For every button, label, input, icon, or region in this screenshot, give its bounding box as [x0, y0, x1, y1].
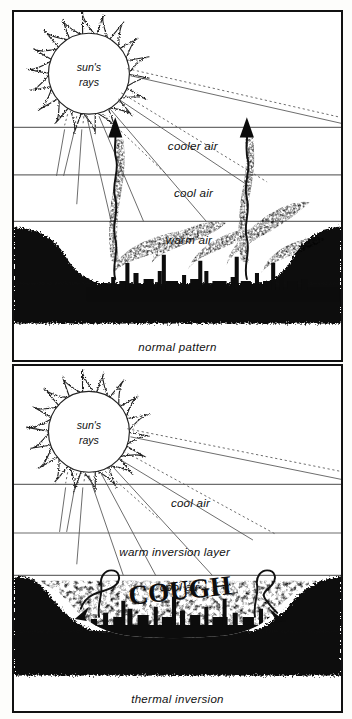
sun-ray-petal	[26, 419, 51, 431]
sun-icon	[26, 12, 149, 135]
sun-label-line1: sun's	[77, 61, 102, 73]
normal-pattern-illustration: sun's rays	[14, 12, 341, 360]
label-cooler-air: cooler air	[168, 139, 219, 152]
sun-label-line2: rays	[79, 76, 100, 88]
label-cool-air-lower: cool air	[160, 580, 200, 593]
label-cool-air: cool air	[174, 186, 214, 199]
label-cool-air-upper: cool air	[171, 496, 211, 509]
panel-thermal-inversion: sun's rays	[12, 364, 343, 713]
smoke-plumes	[109, 137, 326, 273]
sun-icon	[26, 369, 149, 492]
caption-thermal-inversion: thermal inversion	[14, 693, 341, 705]
sun-ray-petal	[83, 12, 96, 35]
sun-label-line1: sun's	[77, 419, 102, 431]
thermal-inversion-illustration: sun's rays	[14, 366, 341, 711]
sun-ray-petal	[83, 113, 96, 134]
figure-sheet: sun's rays	[0, 0, 352, 719]
label-warm-air: warm air	[166, 233, 213, 246]
sun-ray-petal	[83, 369, 96, 392]
panel-normal-pattern: sun's rays	[12, 10, 343, 362]
sun-label-line2: rays	[79, 434, 100, 446]
label-warm-inversion-layer: warm inversion layer	[119, 545, 231, 558]
caption-normal-pattern: normal pattern	[14, 341, 341, 353]
sun-ray-petal	[26, 61, 51, 73]
